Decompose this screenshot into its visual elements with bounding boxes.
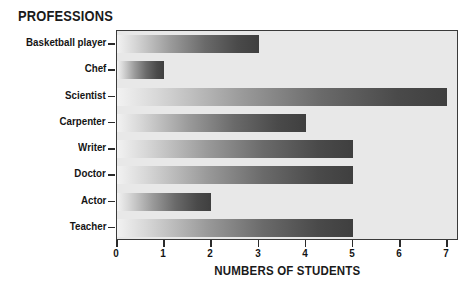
x-axis-tick: [305, 240, 307, 247]
y-axis-label-teacher: Teacher: [69, 220, 106, 232]
y-axis-label-scientist: Scientist: [65, 89, 106, 101]
y-axis-tick: [108, 174, 115, 176]
bar-doctor: [117, 166, 353, 184]
chart-title: PROFESSIONS: [18, 8, 113, 24]
x-axis-tick-label-2: 2: [208, 247, 214, 259]
y-axis-tick: [108, 69, 115, 71]
y-axis-label-actor: Actor: [80, 194, 106, 206]
x-axis-tick: [399, 240, 401, 247]
x-axis-tick-label-1: 1: [160, 247, 166, 259]
chart-container: PROFESSIONS Basketball playerChefScienti…: [0, 0, 473, 296]
bar-row: [117, 166, 458, 184]
x-axis: 01234567: [116, 240, 458, 266]
bar-teacher: [117, 219, 353, 237]
y-axis-tick: [108, 148, 115, 150]
x-axis-title-text: NUMBERS OF STUDENTS: [214, 264, 360, 278]
x-axis-tick: [116, 240, 118, 247]
bar-row: [117, 140, 458, 158]
y-axis-tick: [108, 43, 115, 45]
y-axis-label-group: Basketball playerChefScientistCarpenterW…: [0, 30, 106, 240]
x-axis-tick: [446, 240, 448, 247]
y-axis-tick: [108, 96, 115, 98]
y-axis-label-doctor: Doctor: [75, 167, 106, 179]
y-axis-label-chef: Chef: [84, 62, 106, 74]
bar-carpenter: [117, 114, 306, 132]
y-axis-tick: [108, 122, 115, 124]
bar-scientist: [117, 88, 447, 106]
y-axis-label-writer: Writer: [78, 141, 106, 153]
x-axis-tick-label-5: 5: [349, 247, 355, 259]
x-axis-tick: [258, 240, 260, 247]
bar-row: [117, 193, 458, 211]
x-axis-tick: [163, 240, 165, 247]
bar-row: [117, 61, 458, 79]
bar-basketball-player: [117, 35, 259, 53]
bar-row: [117, 114, 458, 132]
x-axis-tick-label-7: 7: [443, 247, 449, 259]
bar-row: [117, 88, 458, 106]
x-axis-title: NUMBERS OF STUDENTS: [116, 264, 458, 278]
x-axis-tick-label-0: 0: [113, 247, 119, 259]
bar-writer: [117, 140, 353, 158]
x-axis-tick: [352, 240, 354, 247]
y-axis-tick: [108, 227, 115, 229]
bar-row: [117, 35, 458, 53]
y-axis-label-carpenter: Carpenter: [60, 115, 106, 127]
x-axis-tick-label-3: 3: [255, 247, 261, 259]
bar-row: [117, 219, 458, 237]
plot-area: [116, 30, 458, 240]
x-axis-tick-label-6: 6: [396, 247, 402, 259]
y-axis-tick: [108, 201, 115, 203]
y-axis-label-basketball-player: Basketball player: [26, 36, 106, 48]
bar-actor: [117, 193, 211, 211]
x-axis-tick-label-4: 4: [302, 247, 308, 259]
bar-chef: [117, 61, 164, 79]
x-axis-tick: [210, 240, 212, 247]
